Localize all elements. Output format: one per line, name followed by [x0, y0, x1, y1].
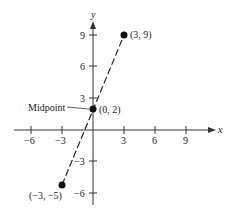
svg-text:6: 6 [152, 135, 157, 146]
svg-text:−3: −3 [74, 156, 85, 167]
point-label: (−3, −5) [29, 190, 62, 202]
x-axis-label: x [217, 124, 223, 135]
point-label: (0, 2) [99, 104, 121, 116]
point-midpoint [90, 106, 97, 113]
annotation-leader-line [67, 107, 89, 109]
x-ticks: −6 −3 3 6 9 [24, 126, 188, 146]
x-axis-arrow-icon [208, 127, 216, 133]
svg-text:3: 3 [80, 93, 85, 104]
svg-text:9: 9 [183, 135, 188, 146]
svg-text:−6: −6 [74, 188, 85, 199]
svg-text:6: 6 [80, 61, 85, 72]
point-label: (3, 9) [130, 29, 152, 41]
point-neg3-neg5 [59, 182, 66, 189]
point-3-9 [121, 32, 128, 39]
midpoint-annotation: Midpoint [28, 102, 65, 113]
y-axis-label: y [90, 9, 96, 20]
y-axis-arrow-icon [90, 21, 96, 29]
svg-text:9: 9 [80, 30, 85, 41]
svg-text:−6: −6 [24, 135, 35, 146]
svg-text:3: 3 [121, 135, 126, 146]
svg-text:−3: −3 [55, 135, 66, 146]
y-ticks: 9 6 3 −3 −6 [74, 30, 97, 199]
coordinate-plane: x y −6 −3 3 6 9 9 6 3 −3 −6 (3, 9) (0, 2… [0, 0, 232, 211]
